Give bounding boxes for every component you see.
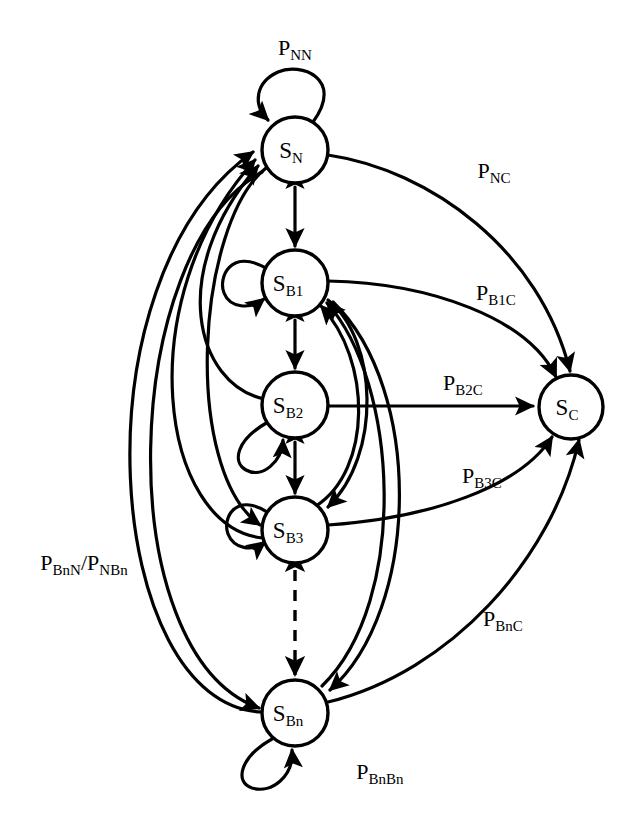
node-sb1[interactable]: SB1	[262, 250, 328, 316]
edge-sn-sc	[328, 155, 570, 371]
self-loop-sb1	[223, 261, 266, 306]
edge-label-pnn: PNN	[278, 35, 312, 63]
edge-label-pb1c: PB1C	[476, 280, 516, 308]
edge-sbn-sc	[328, 440, 579, 702]
node-sb2[interactable]: SB2	[262, 372, 328, 438]
self-loop-sn	[258, 69, 324, 122]
edge-sb1-sbn	[330, 302, 399, 690]
self-loop-sbn	[242, 739, 292, 789]
state-transition-diagram: SN SB1 SB2 SB3 SBn SC PNN PNC PB1C PB2C …	[0, 0, 635, 823]
edge-label-pnc: PNC	[477, 158, 510, 186]
edge-label-pbnn-pnbn: PBnN/PNBn	[40, 550, 128, 578]
edge-label-pb3c: PB3C	[462, 463, 502, 491]
node-sbn[interactable]: SBn	[262, 680, 328, 746]
node-sc[interactable]: SC	[539, 375, 603, 439]
edge-label-pbnc: PBnC	[483, 606, 523, 634]
node-sn[interactable]: SN	[262, 117, 328, 183]
edge-sb3-sn	[172, 160, 263, 538]
edge-sb2-sn	[200, 166, 264, 399]
edge-label-pb2c: PB2C	[443, 370, 483, 398]
edge-label-pbnbn: PBnBn	[356, 759, 404, 787]
node-sb3[interactable]: SB3	[262, 497, 328, 563]
